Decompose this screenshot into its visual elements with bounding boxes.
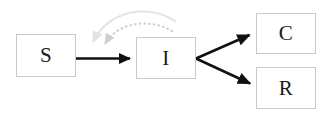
node-i-label: I [162,48,170,69]
edge-i-to-r [196,59,250,84]
node-s[interactable]: S [16,34,76,77]
node-r[interactable]: R [256,67,316,109]
edge-i-to-c [196,35,250,59]
node-s-label: S [40,45,52,66]
node-c[interactable]: C [256,13,316,54]
node-r-label: R [279,78,294,99]
node-c-label: C [279,23,294,44]
diagram-canvas: S I C R [0,0,332,121]
node-i[interactable]: I [136,37,196,79]
